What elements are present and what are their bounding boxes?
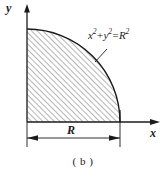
equation-leader-line — [95, 49, 107, 62]
y-axis-label: y — [6, 2, 11, 14]
figure-drawing — [0, 0, 166, 180]
x-axis-label: x — [150, 127, 156, 139]
dimension-arrowhead-right — [109, 135, 120, 141]
x-axis-arrowhead — [150, 119, 160, 125]
hatched-quarter-disc — [27, 29, 120, 122]
equation-equals: = — [112, 29, 119, 41]
circle-equation-label: x2+y2=R2 — [88, 30, 129, 41]
figure-caption: ( b ) — [0, 156, 166, 167]
dimension-arrowhead-left — [27, 135, 38, 141]
y-axis-arrowhead — [24, 4, 30, 13]
equation-exp-3: 2 — [126, 27, 130, 36]
quarter-circle-figure: y x x2+y2=R2 R ( b ) — [0, 0, 166, 180]
radius-dimension-label: R — [67, 124, 75, 136]
